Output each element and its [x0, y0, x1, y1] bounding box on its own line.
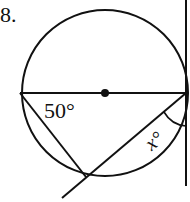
circle-diagram: 8. 50° x° — [0, 0, 190, 202]
secant-line — [62, 93, 186, 198]
geometry-problem-8: 8. 50° x° — [0, 0, 190, 202]
center-point — [101, 89, 109, 97]
problem-number: 8. — [0, 2, 17, 27]
angle-label-50: 50° — [44, 98, 75, 123]
